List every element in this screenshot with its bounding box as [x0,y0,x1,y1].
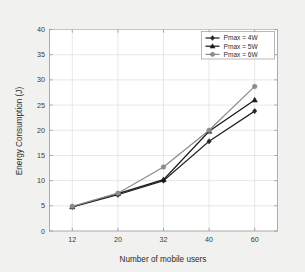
y-tick-label: 15 [37,151,45,160]
legend-marker-sample [210,52,214,56]
figure-container: 0510152025303540 1220324060 Energy Consu… [0,0,305,272]
x-tick-label: 60 [251,235,259,244]
x-tick-label: 40 [205,235,213,244]
y-tick-label: 35 [37,50,45,59]
y-axis-tick-labels: 0510152025303540 [37,25,45,236]
x-axis-title: Number of mobile users [120,255,207,264]
legend: Pmax = 4WPmax = 5WPmax = 6W [202,32,275,60]
x-axis-tick-labels: 1220324060 [68,235,258,244]
y-tick-label: 40 [37,25,45,34]
legend-label: Pmax = 5W [224,43,259,50]
y-tick-label: 30 [37,75,45,84]
legend-label: Pmax = 6W [224,51,259,58]
y-tick-label: 5 [41,201,45,210]
y-tick-label: 25 [37,101,45,110]
y-tick-label: 10 [37,176,45,185]
data-point-marker [207,128,212,133]
data-point-marker [116,191,121,196]
x-tick-label: 20 [114,235,122,244]
data-point-marker [70,204,75,209]
y-tick-label: 20 [37,126,45,135]
y-axis-title: Energy Consumption (J) [15,87,24,176]
x-tick-label: 32 [160,235,168,244]
x-tick-label: 12 [68,235,76,244]
data-point-marker [252,84,257,89]
y-tick-label: 0 [41,227,45,236]
data-point-marker [161,165,166,170]
energy-consumption-line-chart: 0510152025303540 1220324060 Energy Consu… [0,0,305,272]
legend-label: Pmax = 4W [224,34,259,41]
